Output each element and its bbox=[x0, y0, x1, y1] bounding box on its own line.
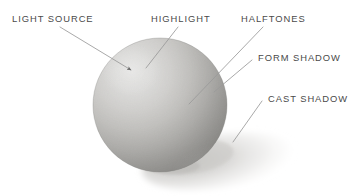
label-halftones: HALFTONES bbox=[241, 14, 306, 23]
sphere-shading-diagram: LIGHT SOURCE HIGHLIGHT HALFTONES FORM SH… bbox=[0, 0, 358, 196]
label-highlight: HIGHLIGHT bbox=[151, 14, 211, 23]
label-light-source: LIGHT SOURCE bbox=[12, 14, 94, 23]
label-form-shadow: FORM SHADOW bbox=[258, 53, 341, 62]
label-cast-shadow: CAST SHADOW bbox=[268, 94, 348, 103]
leader-light-source-line bbox=[60, 27, 131, 70]
